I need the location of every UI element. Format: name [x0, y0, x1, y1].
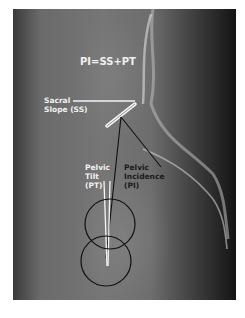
pelvic-incidence-label-line1: Pelvic — [124, 163, 164, 172]
sacral-slope-label: Sacral Slope (SS) — [44, 96, 88, 114]
pelvic-incidence-label-line2: Incidence — [124, 172, 164, 181]
formula-label: PI=SS+PT — [80, 56, 136, 67]
pelvic-tilt-vertical-line — [104, 181, 107, 266]
pelvic-incidence-perpendicular-line — [121, 117, 161, 167]
sacral-slope-label-line1: Sacral — [44, 96, 88, 105]
pelvis-xray-image: PI=SS+PT Sacral Slope (SS) Pelvic Tilt (… — [13, 9, 236, 300]
pelvic-tilt-label-line3: (PT) — [85, 181, 110, 190]
pelvic-incidence-label-line3: (PI) — [124, 181, 164, 190]
pelvic-incidence-label: Pelvic Incidence (PI) — [124, 163, 164, 190]
bone-contour-sacrum — [143, 14, 151, 104]
pelvic-tilt-label-line1: Pelvic — [85, 163, 110, 172]
sacral-slope-label-line2: Slope (SS) — [44, 105, 88, 114]
sacral-endplate-outline — [107, 104, 135, 126]
xray-annotations — [13, 9, 236, 300]
pelvic-tilt-label: Pelvic Tilt (PT) — [85, 163, 110, 190]
pelvic-tilt-label-line2: Tilt — [85, 172, 110, 181]
